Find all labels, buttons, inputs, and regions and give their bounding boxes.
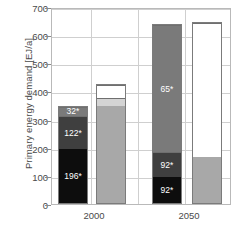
bar-segment: 122*: [59, 116, 87, 150]
gridline: [52, 9, 230, 10]
segment-value-label: 32*: [67, 107, 80, 116]
chart-container: Primary energy demand [EJ/a] 01002003004…: [0, 0, 238, 231]
bar-segment: 65*: [153, 25, 181, 152]
segment-value-label: 92*: [161, 186, 174, 195]
stacked-bar-2000[interactable]: 196*122*32*: [58, 106, 88, 205]
bar-segment: [97, 98, 125, 106]
bar-segment: [193, 23, 221, 157]
bar-segment: [97, 106, 125, 203]
stacked-bar-2050[interactable]: 92*92*65*: [152, 24, 182, 204]
bar-segment: 92*: [153, 152, 181, 178]
comparison-bar-2000[interactable]: [96, 84, 126, 204]
y-tick-mark: [45, 205, 51, 206]
segment-value-label: 92*: [161, 161, 174, 170]
bar-segment: 196*: [59, 149, 87, 203]
bar-segment: 92*: [153, 177, 181, 203]
x-tick-label: 2000: [83, 210, 104, 221]
vertical-gridline: [91, 9, 92, 204]
bar-segment: 32*: [59, 107, 87, 116]
segment-value-label: 196*: [64, 172, 82, 181]
vertical-gridline: [138, 9, 139, 204]
bar-segment: [97, 85, 125, 97]
segment-value-label: 65*: [161, 85, 174, 94]
comparison-bar-2050[interactable]: [192, 22, 222, 204]
vertical-gridline: [185, 9, 186, 204]
segment-value-label: 122*: [64, 129, 82, 138]
x-tick-label: 2050: [178, 210, 199, 221]
plot-area: 196*122*32*92*92*65*: [51, 8, 231, 205]
bar-segment: [193, 157, 221, 203]
